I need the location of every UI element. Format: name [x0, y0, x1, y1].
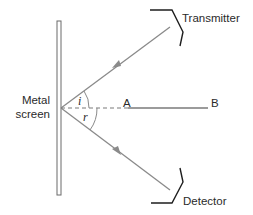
incident-arrow-icon — [112, 60, 121, 68]
point-a-label: A — [123, 97, 131, 109]
angle-i-arc — [84, 91, 89, 108]
metal-screen-label-line2: screen — [15, 108, 50, 120]
angle-i-label: i — [78, 94, 81, 108]
point-b-label: B — [211, 97, 219, 109]
metal-screen-label-line1: Metal — [22, 94, 50, 106]
detector-label: Detector — [183, 195, 227, 207]
reflected-ray — [61, 108, 170, 190]
angle-r-arc — [90, 108, 97, 130]
reflection-diagram: Transmitter Detector Metal screen A B i … — [0, 0, 253, 215]
transmitter-icon — [150, 10, 183, 46]
detector-icon — [151, 168, 183, 203]
angle-r-label: r — [83, 110, 88, 124]
metal-screen — [57, 21, 61, 195]
transmitter-label: Transmitter — [182, 12, 240, 24]
